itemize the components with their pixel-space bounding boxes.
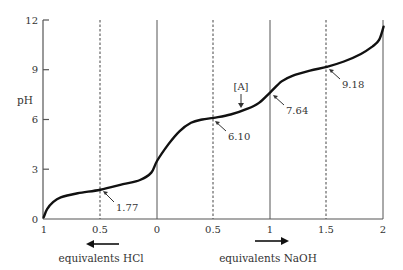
annotation-label: 6.10 [228,131,250,142]
annotation-7.64: 7.64 [273,95,308,116]
down-arrow-icon [238,103,244,108]
x-tick-label: 1.5 [318,224,334,235]
annotation-marker-a: [A] [233,81,248,108]
marker-a-label: [A] [233,81,248,92]
x-tick-label: 0.5 [92,224,108,235]
x-tick-label: 1 [41,224,47,235]
annotation-9.18: 9.18 [329,69,364,90]
left-arrow-icon [86,240,94,248]
x-tick-label: 1 [267,224,273,235]
hcl-label: equivalents HCl [58,252,144,264]
annotation-label: 9.18 [342,79,364,90]
y-tick-label: 0 [32,214,38,225]
y-tick-label: 9 [32,64,38,75]
titration-chart: 12 9 6 3 0 pH 1 0.5 0 0.5 1 1.5 2 1.77 6… [0,0,403,270]
guide-lines [100,20,383,219]
annotation-6.10: 6.10 [215,121,250,142]
x-tick-label: 2 [380,224,386,235]
naoh-direction: equivalents NaOH [219,237,317,264]
hcl-direction: equivalents HCl [58,240,144,264]
annotation-1.77: 1.77 [103,191,138,213]
right-arrow-icon [281,237,289,245]
x-tick-label: 0.5 [205,224,221,235]
x-tick-label: 0 [154,224,160,235]
y-tick-label: 6 [32,114,38,125]
y-tick-labels: 12 9 6 3 0 [25,15,38,225]
y-axis-title: pH [17,94,33,106]
arrowhead-icon [103,191,108,195]
annotation-label: 7.64 [286,105,308,116]
y-tick-label: 3 [32,164,38,175]
x-tick-labels: 1 0.5 0 0.5 1 1.5 2 [41,224,386,235]
annotation-label: 1.77 [116,202,138,213]
titration-curve [44,27,384,218]
naoh-label: equivalents NaOH [219,252,317,264]
y-tick-label: 12 [25,15,38,26]
